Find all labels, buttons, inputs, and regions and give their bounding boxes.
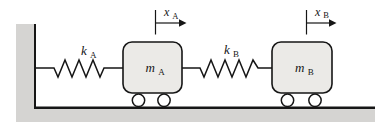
spring-b-label-sub: B [233, 49, 239, 59]
diagram-canvas: k A k B m A m B [0, 0, 379, 126]
mass-a-label-main: m [146, 60, 155, 75]
spring-b-label-main: k [224, 42, 230, 57]
axis-marker-a: x A [156, 5, 187, 35]
mass-b-cart: m B [272, 42, 332, 107]
axis-b-arrowhead-icon [329, 19, 337, 26]
spring-b-label: k B [224, 42, 239, 59]
axis-b-label-main: x [314, 5, 321, 19]
spring-a-label: k A [81, 43, 97, 60]
axis-a-label-sub: A [172, 11, 179, 21]
mass-b-wheel-right [309, 94, 321, 106]
spring-a-label-sub: A [90, 50, 97, 60]
axis-b-label-sub: B [323, 10, 329, 20]
spring-a-label-main: k [81, 43, 87, 58]
mass-a-wheel-left [132, 94, 144, 106]
axis-a-label: x A [163, 5, 179, 21]
mass-a-cart: m A [123, 42, 182, 107]
mass-a-wheel-right [158, 94, 170, 106]
mass-a-label-sub: A [158, 67, 165, 77]
mass-b-label-main: m [295, 60, 304, 75]
axis-a-arrowhead-icon [179, 19, 187, 26]
axis-a-label-main: x [163, 5, 170, 19]
two-mass-spring-diagram: k A k B m A m B [0, 0, 379, 126]
mass-b-wheel-left [281, 94, 293, 106]
axis-marker-b: x B [307, 5, 337, 35]
mass-b-label-sub: B [308, 67, 314, 77]
wall [16, 24, 35, 122]
spring-a [35, 60, 123, 77]
spring-b [182, 60, 272, 77]
ground [16, 109, 375, 122]
axis-b-label: x B [314, 5, 329, 21]
